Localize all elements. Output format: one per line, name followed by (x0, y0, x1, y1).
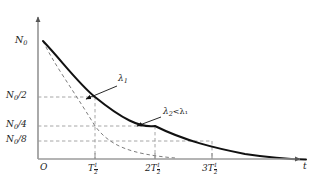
y-tick-label-eighth: N0/8 (6, 135, 27, 145)
y-tick-label-half: N0/2 (6, 91, 27, 101)
y-tick-eighth-fraction: /8 (18, 134, 27, 144)
y-tick-quarter-base: N (6, 119, 14, 129)
x-tick-t3-fraction: 12 (214, 163, 218, 175)
decay-curve-figure: N0 N0/2 N0/4 N0/8 O T12 2T12 3T12 t λ1 λ… (0, 0, 319, 187)
y-tick-quarter-fraction: /4 (18, 119, 27, 129)
x-tick-t2-fraction: 12 (157, 163, 161, 175)
annotation-lambda1-subscript: 1 (124, 77, 128, 85)
x-tick-label-t1: T12 (88, 163, 98, 175)
curve-lambda2-solid (43, 41, 306, 160)
y-tick-half-base: N (6, 90, 14, 100)
y-tick-eighth-base: N (6, 134, 14, 144)
y-tick-half-fraction: /2 (18, 90, 27, 100)
y-tick-label-n0: N0 (15, 35, 27, 46)
axes (38, 17, 300, 159)
y-tick-n0-subscript: 0 (23, 39, 27, 47)
x-tick-label-t3: 3T12 (202, 163, 217, 175)
origin-label: O (40, 163, 47, 172)
x-axis-label: t (303, 162, 307, 171)
annotation-arrows (86, 86, 161, 126)
y-tick-label-quarter: N0/4 (6, 120, 27, 130)
x-axis-ticks (95, 153, 212, 159)
x-tick-label-t2: 2T12 (145, 163, 160, 175)
x-tick-t1-fraction: 12 (94, 163, 98, 175)
annotation-lambda2: λ2<λ₁ (163, 107, 188, 117)
arrow-lambda2 (137, 117, 161, 126)
plot-canvas (0, 0, 319, 187)
annotation-lambda2-comparison: <λ₁ (173, 107, 188, 116)
annotation-lambda1: λ1 (118, 74, 128, 84)
